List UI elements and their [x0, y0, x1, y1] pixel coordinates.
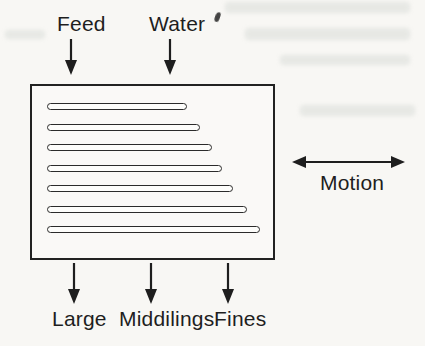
- riffle-bar: [47, 185, 233, 192]
- bleed-through-artifact: [225, 2, 410, 13]
- motion-double-arrow-icon: [292, 154, 405, 170]
- fines-label: Fines: [214, 308, 266, 329]
- middlings-label: Middilings: [119, 308, 214, 329]
- fines-down-arrow-icon: [220, 263, 236, 304]
- water-down-arrow-icon: [162, 39, 178, 75]
- bleed-through-artifact: [280, 55, 410, 65]
- table-deck: [30, 84, 275, 260]
- riffle-bar: [47, 206, 247, 213]
- water-label: Water: [149, 13, 205, 34]
- bleed-through-artifact: [300, 105, 415, 116]
- large-down-arrow-icon: [66, 263, 82, 304]
- scanned-figure-page: Feed Water Motion Large Middilings Fines: [0, 0, 425, 346]
- bleed-through-artifact: [245, 28, 410, 40]
- motion-label: Motion: [320, 172, 384, 193]
- riffle-bar: [47, 124, 200, 131]
- scan-speck-artifact: [214, 11, 222, 22]
- riffle-bar: [47, 144, 212, 151]
- riffle-bar: [47, 165, 222, 172]
- large-label: Large: [52, 308, 107, 329]
- bleed-through-artifact: [5, 30, 45, 39]
- middlings-down-arrow-icon: [143, 263, 159, 304]
- riffle-bar: [47, 226, 260, 233]
- feed-label: Feed: [57, 13, 106, 34]
- riffle-bar: [47, 103, 187, 110]
- feed-down-arrow-icon: [63, 39, 79, 75]
